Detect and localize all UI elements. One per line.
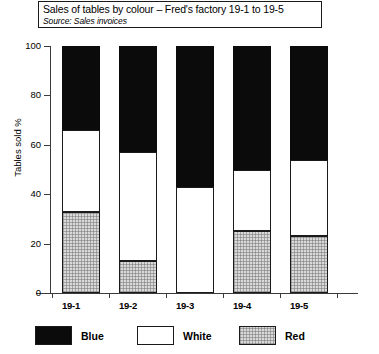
bar-segment-blue-19-2: [119, 46, 157, 152]
legend-label-red: Red: [285, 330, 305, 342]
legend-label-white: White: [183, 330, 212, 342]
bars-layer: [0, 0, 379, 294]
bar-segment-red-19-5: [290, 236, 328, 293]
bar-19-1[interactable]: [62, 46, 100, 293]
bar-segment-white-19-1: [62, 130, 100, 212]
bar-segment-blue-19-3: [176, 46, 214, 187]
x-axis-label-19-5: 19-5: [280, 300, 318, 311]
bar-segment-red-19-1: [62, 212, 100, 294]
bar-19-5[interactable]: [290, 46, 328, 293]
bar-segment-red-19-4: [233, 231, 271, 293]
bar-19-3[interactable]: [176, 46, 214, 293]
bar-segment-blue-19-4: [233, 46, 271, 170]
bar-segment-blue-19-1: [62, 46, 100, 130]
chart-plot-area: 020406080100 Tables sold % 19-119-219-31…: [0, 0, 379, 310]
bar-segment-white-19-2: [119, 152, 157, 261]
x-tick-19-3: [166, 293, 167, 298]
x-axis-label-19-1: 19-1: [52, 300, 90, 311]
x-axis-label-19-4: 19-4: [223, 300, 261, 311]
x-tick-end: [337, 293, 338, 298]
bar-segment-white-19-3: [176, 187, 214, 293]
x-tick-19-2: [109, 293, 110, 298]
bar-19-2[interactable]: [119, 46, 157, 293]
x-axis-label-19-3: 19-3: [166, 300, 204, 311]
bar-segment-white-19-5: [290, 160, 328, 237]
black-swatch: [35, 326, 72, 345]
x-tick-19-5: [280, 293, 281, 298]
x-axis-label-19-2: 19-2: [109, 300, 147, 311]
bar-19-4[interactable]: [233, 46, 271, 293]
stipple-swatch: [239, 326, 276, 345]
legend-label-blue: Blue: [81, 330, 104, 342]
x-tick-19-1: [52, 293, 53, 298]
bar-segment-blue-19-5: [290, 46, 328, 160]
bar-segment-white-19-4: [233, 170, 271, 232]
white-swatch: [137, 326, 174, 345]
x-tick-19-4: [223, 293, 224, 298]
bar-segment-red-19-2: [119, 261, 157, 293]
chart-legend: BlueWhiteRed: [0, 323, 379, 354]
